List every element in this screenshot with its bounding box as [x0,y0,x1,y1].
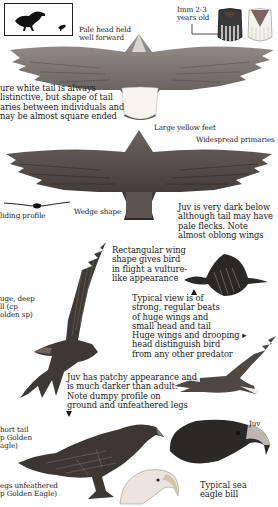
caption-juv-head: Juv [249,420,260,428]
caption-huge-deep-bill: uge, deep ll (cp olden sp) [0,295,35,320]
caption-typical-view: Typical view is of strong, regular beats… [132,294,220,332]
caption-white-tail: ure white tail is always listinctive, bu… [0,84,124,122]
caption-sea-eagle-bill: Typical sea eagle bill [200,481,247,500]
adult-head-illustration [118,466,180,506]
caption-imm-age: Imm 2-3 years old [177,6,209,22]
caption-juv-patchy: Juv has patchy appearance and is much da… [67,373,197,411]
gliding-profile-silhouette-icon [4,198,70,210]
caption-juv-dark-below: Juv is very dark below although tail may… [178,203,273,241]
caption-widespread-primaries: Widespread primaries [196,136,275,144]
caption-rectangular-wing: Rectangular wing shape gives bird in fli… [112,246,187,284]
caption-wedge-shape: Wedge shape [74,208,121,216]
caption-gliding-profile: liding profile [0,212,46,220]
